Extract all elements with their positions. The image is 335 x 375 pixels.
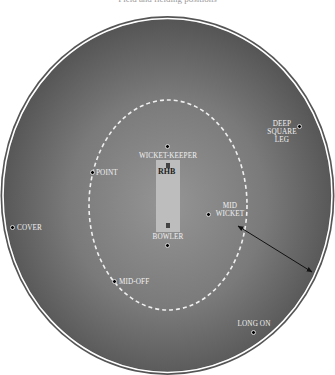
fielder-bowler-marker [165,243,170,248]
deep-square-leg-line2: SQUARE [264,128,300,136]
fielder-bowler-label: BOWLER [138,233,198,241]
fielder-mid-off-marker [112,279,117,284]
fielder-cover-label: COVER [17,224,42,232]
cricket-field [0,0,335,375]
fielder-mid-off-label: MID-OFF [119,278,149,286]
fielder-mid-wicket-marker [206,212,211,217]
batsman-label: RHB [158,167,175,176]
fielder-cover-marker [10,225,15,230]
fielder-point-label: POINT [96,169,118,177]
fielder-mid-wicket-label: MID WICKET [212,202,248,218]
mid-wicket-line1: MID [212,202,248,210]
deep-square-leg-line1: DEEP [264,120,300,128]
deep-square-leg-line3: LEG [264,136,300,144]
mid-wicket-line2: WICKET [212,210,248,218]
stumps-bottom [166,223,170,228]
fielder-long-on-marker [251,330,256,335]
fielder-long-on-label: LONG ON [234,320,274,328]
fielder-wicket-keeper-label: WICKET-KEEPER [128,152,208,160]
fielder-wicket-keeper-marker [165,144,170,149]
fielder-deep-square-leg-label: DEEP SQUARE LEG [264,120,300,144]
fielder-point-marker [90,170,95,175]
